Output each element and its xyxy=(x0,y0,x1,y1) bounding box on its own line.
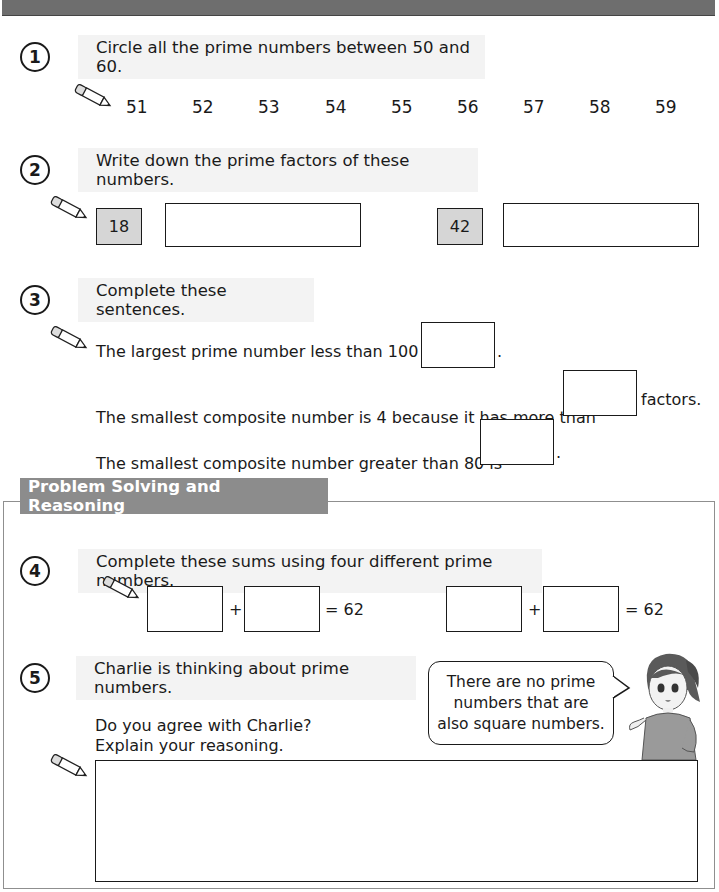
factors-count-input[interactable] xyxy=(563,370,637,416)
plus-sign: + xyxy=(528,600,541,619)
question-number-3: 3 xyxy=(20,285,50,315)
number-option[interactable]: 53 xyxy=(258,97,280,117)
reasoning-answer-box[interactable] xyxy=(95,760,698,882)
header-bar xyxy=(2,0,715,16)
question-5-prompt-1: Do you agree with Charlie? xyxy=(95,716,312,735)
sentence-1-text: The largest prime number less than 100 i… xyxy=(96,342,436,361)
sentence-3-end: . xyxy=(556,443,561,462)
number-option[interactable]: 57 xyxy=(523,97,545,117)
pencil-icon xyxy=(46,196,92,222)
pencil-icon xyxy=(98,576,144,602)
sum1-prime-b-input[interactable] xyxy=(244,586,320,632)
sentence-2-end: factors. xyxy=(641,390,701,409)
largest-prime-input[interactable] xyxy=(421,322,495,368)
sum1-prime-a-input[interactable] xyxy=(147,586,223,632)
given-number-42: 42 xyxy=(437,208,483,245)
question-5-prompt-2: Explain your reasoning. xyxy=(95,736,284,755)
given-number-18: 18 xyxy=(96,208,142,245)
sentence-1-end: . xyxy=(497,342,502,361)
prime-factors-18-input[interactable] xyxy=(165,203,361,247)
question-number-4: 4 xyxy=(20,556,50,586)
number-option[interactable]: 52 xyxy=(192,97,214,117)
smallest-composite-input[interactable] xyxy=(480,419,554,465)
question-3-instruction: Complete these sentences. xyxy=(78,278,314,322)
equals-62: = 62 xyxy=(325,600,364,619)
pencil-icon xyxy=(46,326,92,352)
question-number-1: 1 xyxy=(20,42,50,72)
pencil-icon xyxy=(46,754,92,780)
question-5-instruction: Charlie is thinking about prime numbers. xyxy=(76,656,416,700)
sum2-prime-a-input[interactable] xyxy=(446,586,522,632)
equals-62: = 62 xyxy=(625,600,664,619)
number-option[interactable]: 54 xyxy=(325,97,347,117)
prime-factors-42-input[interactable] xyxy=(503,203,699,247)
question-1-instruction: Circle all the prime numbers between 50 … xyxy=(78,35,485,79)
sum2-prime-b-input[interactable] xyxy=(543,586,619,632)
charlie-character-icon xyxy=(628,648,706,760)
sentence-3-text: The smallest composite number greater th… xyxy=(96,454,502,473)
question-number-5: 5 xyxy=(20,663,50,693)
pencil-icon xyxy=(70,84,116,110)
question-number-2: 2 xyxy=(20,155,50,185)
number-option[interactable]: 51 xyxy=(126,97,148,117)
number-option[interactable]: 58 xyxy=(589,97,611,117)
number-option[interactable]: 55 xyxy=(391,97,413,117)
question-2-instruction: Write down the prime factors of these nu… xyxy=(78,148,478,192)
section-title: Problem Solving and Reasoning xyxy=(20,478,328,514)
speech-bubble: There are no prime numbers that are also… xyxy=(428,661,614,745)
number-option[interactable]: 56 xyxy=(457,97,479,117)
number-option[interactable]: 59 xyxy=(655,97,677,117)
plus-sign: + xyxy=(229,600,242,619)
